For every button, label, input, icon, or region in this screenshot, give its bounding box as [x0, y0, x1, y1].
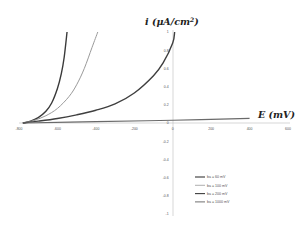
legend-label: ba = 100 mV	[207, 184, 228, 188]
chart: -800-600-400-2000200400600 10.80.60.40.2…	[0, 0, 305, 230]
y-tick-label: -1	[166, 212, 169, 216]
series-line	[23, 32, 175, 123]
legend: ba = 60 mVba = 100 mVba = 200 mVba = 100…	[195, 175, 230, 204]
y-tick-label: -0.6	[163, 176, 169, 180]
series-line	[23, 32, 67, 123]
x-tick-label: 400	[247, 127, 253, 131]
legend-label: ba = 1000 mV	[207, 200, 230, 204]
legend-label: ba = 200 mV	[207, 192, 228, 196]
x-tick-label: 600	[285, 127, 291, 131]
y-tick-label: 0	[167, 121, 169, 125]
y-tick-label: 0.6	[164, 67, 169, 71]
y-tick-label: 0.4	[164, 85, 169, 89]
x-tick-labels: -800-600-400-2000200400600	[15, 127, 290, 131]
x-axis-title: E (mV)	[257, 109, 295, 120]
legend-label: ba = 60 mV	[207, 175, 226, 179]
x-tick-label: 200	[208, 127, 214, 131]
y-tick-label: 0.2	[164, 103, 169, 107]
x-tick-label: -600	[54, 127, 61, 131]
series-lines	[23, 32, 250, 123]
x-tick-label: 0	[172, 127, 174, 131]
x-tick-label: -400	[92, 127, 99, 131]
x-tick-label: -800	[15, 127, 22, 131]
y-tick-label: 1	[167, 30, 169, 34]
y-tick-label: -0.8	[163, 194, 169, 198]
y-tick-label: -0.4	[163, 158, 169, 162]
y-axis-title: i (μA/cm2)	[145, 16, 199, 28]
y-tick-label: 0.8	[164, 49, 169, 53]
x-tick-label: -200	[131, 127, 138, 131]
y-tick-label: -0.2	[163, 140, 169, 144]
